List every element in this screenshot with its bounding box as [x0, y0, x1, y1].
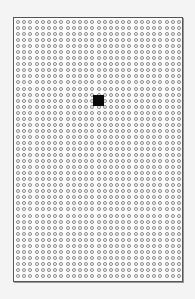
circle-icon: [90, 62, 94, 66]
circle-icon: [90, 56, 94, 60]
circle-icon: [121, 159, 125, 163]
circle-icon: [66, 62, 70, 66]
circle-icon: [22, 214, 26, 218]
circle-icon: [84, 183, 88, 187]
circle-icon: [140, 87, 144, 91]
circle-icon: [109, 220, 113, 224]
circle-icon: [165, 183, 169, 187]
circle-icon: [59, 256, 63, 260]
circle-icon: [152, 226, 156, 230]
circle-icon: [78, 56, 82, 60]
circle-icon: [127, 32, 131, 36]
circle-icon: [115, 250, 119, 254]
circle-icon: [72, 44, 76, 48]
circle-icon: [84, 238, 88, 242]
circle-icon: [59, 147, 63, 151]
circle-icon: [66, 250, 70, 254]
circle-icon: [165, 268, 169, 272]
circle-icon: [127, 20, 131, 24]
circle-icon: [78, 195, 82, 199]
circle-icon: [78, 201, 82, 205]
circle-icon: [177, 195, 181, 199]
circle-icon: [28, 238, 32, 242]
circle-icon: [109, 93, 113, 97]
circle-icon: [127, 87, 131, 91]
circle-icon: [158, 183, 162, 187]
circle-icon: [109, 141, 113, 145]
circle-icon: [84, 262, 88, 266]
circle-icon: [28, 153, 32, 157]
circle-icon: [35, 274, 39, 278]
circle-icon: [115, 20, 119, 24]
circle-icon: [84, 38, 88, 42]
circle-icon: [127, 274, 131, 278]
circle-icon: [66, 50, 70, 54]
circle-icon: [152, 147, 156, 151]
circle-icon: [41, 93, 45, 97]
circle-icon: [177, 44, 181, 48]
circle-icon: [127, 214, 131, 218]
circle-icon: [171, 147, 175, 151]
circle-icon: [97, 20, 101, 24]
circle-icon: [35, 44, 39, 48]
circle-icon: [121, 171, 125, 175]
circle-icon: [59, 50, 63, 54]
circle-icon: [171, 250, 175, 254]
circle-icon: [28, 68, 32, 72]
circle-icon: [16, 147, 20, 151]
circle-icon: [134, 183, 138, 187]
circle-icon: [84, 153, 88, 157]
selected-cell-marker[interactable]: [93, 95, 104, 106]
circle-icon: [16, 159, 20, 163]
circle-icon: [90, 32, 94, 36]
circle-icon: [90, 244, 94, 248]
circle-icon: [72, 214, 76, 218]
circle-icon: [158, 87, 162, 91]
circle-icon: [84, 171, 88, 175]
circle-icon: [103, 244, 107, 248]
circle-icon: [84, 20, 88, 24]
circle-icon: [22, 62, 26, 66]
circle-icon: [103, 129, 107, 133]
circle-icon: [115, 80, 119, 84]
circle-icon: [84, 87, 88, 91]
circle-icon: [53, 268, 57, 272]
circle-icon: [28, 274, 32, 278]
circle-icon: [78, 207, 82, 211]
circle-icon: [66, 44, 70, 48]
circle-icon: [109, 38, 113, 42]
circle-icon: [22, 20, 26, 24]
circle-icon: [103, 159, 107, 163]
circle-icon: [146, 123, 150, 127]
circle-icon: [78, 68, 82, 72]
circle-icon: [22, 74, 26, 78]
circle-icon: [97, 68, 101, 72]
circle-icon: [78, 111, 82, 115]
circle-icon: [53, 201, 57, 205]
circle-icon: [134, 74, 138, 78]
circle-icon: [134, 147, 138, 151]
circle-icon: [177, 159, 181, 163]
circle-icon: [177, 147, 181, 151]
circle-icon: [41, 44, 45, 48]
circle-icon: [84, 68, 88, 72]
circle-icon: [115, 268, 119, 272]
circle-icon: [47, 256, 51, 260]
circle-icon: [121, 87, 125, 91]
circle-icon: [171, 129, 175, 133]
circle-icon: [177, 189, 181, 193]
circle-icon: [22, 262, 26, 266]
circle-icon: [140, 111, 144, 115]
circle-icon: [72, 177, 76, 181]
circle-icon: [115, 189, 119, 193]
circle-icon: [109, 50, 113, 54]
board-cell[interactable]: [176, 273, 182, 279]
circle-icon: [53, 20, 57, 24]
circle-icon: [16, 50, 20, 54]
circle-icon: [177, 105, 181, 109]
circle-icon: [115, 129, 119, 133]
circle-icon: [72, 38, 76, 42]
circle-icon: [35, 111, 39, 115]
circle-icon: [152, 244, 156, 248]
circle-icon: [171, 74, 175, 78]
